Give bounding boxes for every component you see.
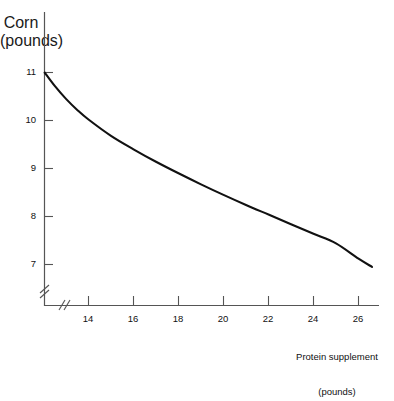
data-series-line (45, 73, 372, 267)
x-axis-ticks (89, 296, 359, 305)
y-axis-ticks (44, 73, 53, 265)
x-axis-title-line2: (pounds) (283, 386, 391, 398)
